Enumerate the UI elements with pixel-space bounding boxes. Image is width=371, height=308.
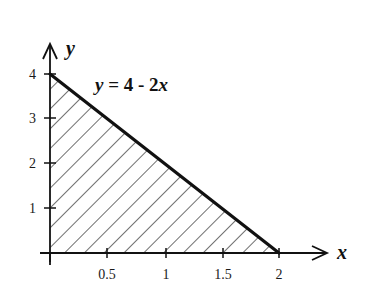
x-axis-label: x [336, 241, 347, 263]
y-tick-label: 2 [29, 156, 36, 171]
y-tick-label: 1 [29, 201, 36, 216]
equation-lhs: y [93, 74, 104, 95]
y-axis-label: y [64, 37, 75, 60]
equation-rhs: = 4 - 2 [103, 74, 158, 95]
y-tick-label: 4 [29, 67, 36, 82]
x-tick-label: 2 [276, 267, 283, 282]
x-tick-label: 0.5 [98, 267, 116, 282]
x-tick-label: 1 [163, 267, 170, 282]
chart-canvas: 4 3 2 1 0.5 1 1.5 2 y x y = 4 - 2x [0, 0, 371, 308]
y-tick-label: 3 [29, 111, 36, 126]
equation-label: y = 4 - 2x [93, 74, 169, 95]
equation-var: x [158, 74, 169, 95]
x-tick-label: 1.5 [214, 267, 232, 282]
